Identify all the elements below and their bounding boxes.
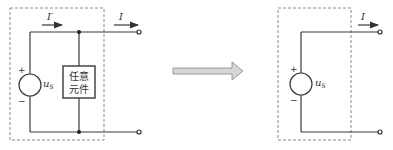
top-junction-dot [77, 30, 81, 34]
voltage-source-icon [19, 74, 41, 96]
bottom-terminal [378, 130, 382, 134]
outer-current-label: I [118, 11, 124, 22]
right-arrow-icon [173, 62, 243, 80]
source-label: uS [315, 77, 326, 89]
plus-sign: + [18, 65, 26, 75]
top-terminal [137, 30, 141, 34]
element-label-line2: 元件 [69, 84, 89, 95]
bottom-terminal [137, 130, 141, 134]
element-label-line1: 任意 [69, 70, 89, 82]
top-terminal [378, 30, 382, 34]
right-circuit: + − uS I [278, 8, 382, 140]
right-dashed-boundary [278, 8, 351, 140]
outer-current-label: I [360, 11, 366, 22]
minus-sign: − [18, 96, 26, 106]
source-label: uS [43, 78, 54, 90]
inner-current-label: I′ [46, 11, 54, 22]
left-circuit: + − uS 任意 元件 I′ I [10, 8, 141, 140]
plus-sign: + [290, 64, 298, 74]
transform-arrow [173, 62, 243, 80]
bottom-junction-dot [77, 130, 81, 134]
voltage-source-icon [290, 73, 312, 95]
minus-sign: − [290, 95, 298, 105]
